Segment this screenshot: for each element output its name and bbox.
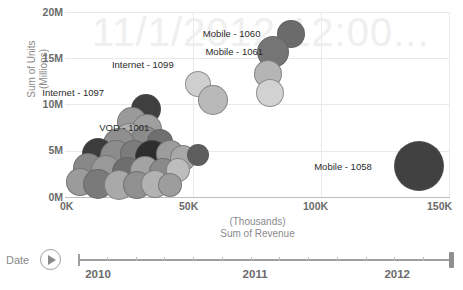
gridline-x-50k — [193, 12, 194, 197]
gridline-y-20m — [65, 12, 450, 13]
slider-tick — [308, 257, 309, 261]
x-tick-0k: 0K — [60, 200, 73, 212]
slider-tick — [394, 257, 395, 261]
x-tick-100k: 100K — [303, 200, 328, 212]
data-label: Mobile - 1061 — [205, 46, 263, 57]
bubble-point[interactable] — [158, 173, 182, 197]
slider-tick — [107, 257, 108, 261]
data-label: Mobile - 1058 — [314, 161, 372, 172]
bubble-point[interactable] — [187, 144, 209, 166]
data-label: Mobile - 1060 — [203, 28, 261, 39]
plot-area: 11/1/2012 12:00... Mobile - 1060Mobile -… — [65, 12, 450, 197]
slider-year-2012: 2012 — [384, 268, 410, 280]
play-icon — [48, 255, 56, 265]
slider-tick — [423, 257, 424, 261]
slider-tick — [279, 257, 280, 261]
y-tick-0m: 0M — [5, 191, 63, 203]
x-axis-title-main: Sum of Revenue — [65, 228, 450, 240]
date-label: Date — [6, 254, 29, 266]
date-timeline[interactable]: Date 201020112012 — [0, 244, 463, 290]
slider-tick — [164, 257, 165, 261]
gridline-x-150k — [449, 12, 450, 197]
gridline-y-10m — [65, 104, 450, 105]
bubble-point[interactable] — [394, 141, 444, 191]
slider-handle[interactable] — [449, 252, 454, 268]
data-label: Internet - 1097 — [42, 87, 104, 98]
slider-year-2011: 2011 — [243, 268, 268, 280]
bubble-chart-visualization: Sum of Units (Millions) 20M 15M 10M 5M 0… — [0, 0, 463, 290]
y-tick-10m: 10M — [5, 98, 63, 110]
slider-start-cap — [78, 254, 80, 266]
slider-tick — [251, 257, 252, 261]
data-label: VOD - 1001 — [99, 122, 149, 133]
x-axis-title-unit: (Thousands) — [65, 216, 450, 228]
y-tick-5m: 5M — [5, 144, 63, 156]
slider-tick — [337, 257, 338, 261]
play-button[interactable] — [40, 249, 61, 270]
slider-tick — [136, 257, 137, 261]
y-tick-20m: 20M — [5, 6, 63, 18]
x-axis-title: (Thousands) Sum of Revenue — [65, 216, 450, 240]
x-tick-150k: 150K — [427, 200, 452, 212]
y-axis-ticks: 20M 15M 10M 5M 0M — [0, 0, 63, 240]
bubble-point[interactable] — [198, 85, 228, 115]
slider-year-2010: 2010 — [85, 268, 111, 280]
slider-tick — [222, 257, 223, 261]
slider-tick — [366, 257, 367, 261]
x-tick-50k: 50K — [179, 200, 198, 212]
data-label: Internet - 1099 — [112, 59, 174, 70]
chart-region: Sum of Units (Millions) 20M 15M 10M 5M 0… — [0, 0, 463, 240]
y-tick-15m: 15M — [5, 52, 63, 64]
slider-tick — [193, 257, 194, 261]
date-slider[interactable] — [78, 259, 452, 261]
